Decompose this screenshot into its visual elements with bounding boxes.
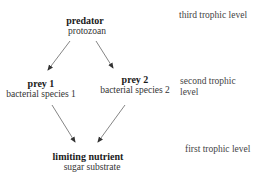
arrow-predator-to-prey1	[48, 41, 70, 70]
second-level-line2: level	[180, 87, 236, 98]
prey2-subtitle: bacterial species 2	[98, 85, 172, 96]
nutrient-title: limiting nutrient	[52, 151, 124, 162]
node-prey1: prey 1 bacterial species 1	[4, 78, 78, 100]
predator-title: predator	[60, 15, 110, 26]
label-third-trophic-level: third trophic level	[179, 10, 247, 21]
arrow-prey1-to-nutrient	[52, 105, 75, 142]
predator-subtitle: protozoan	[60, 26, 110, 37]
prey2-title: prey 2	[98, 74, 172, 85]
node-nutrient: limiting nutrient sugar substrate	[52, 151, 124, 173]
prey1-title: prey 1	[4, 78, 78, 89]
label-first-trophic-level: first trophic level	[185, 144, 250, 155]
node-predator: predator protozoan	[60, 15, 110, 37]
arrow-prey2-to-nutrient	[98, 105, 125, 142]
node-prey2: prey 2 bacterial species 2	[98, 74, 172, 96]
label-second-trophic-level: second trophic level	[180, 76, 236, 98]
prey1-subtitle: bacterial species 1	[4, 89, 78, 100]
arrow-predator-to-prey2	[96, 41, 113, 68]
second-level-line1: second trophic	[180, 76, 236, 87]
nutrient-subtitle: sugar substrate	[52, 162, 124, 173]
